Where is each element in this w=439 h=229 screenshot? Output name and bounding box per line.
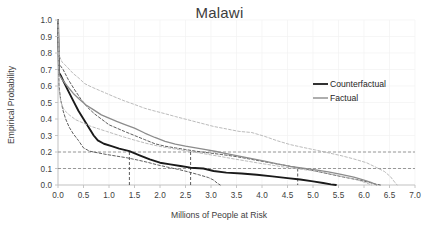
x-axis-title: Millions of People at Risk: [171, 210, 268, 220]
y-tick-label: 0.2: [41, 148, 53, 157]
x-tick-label: 5.0: [307, 191, 319, 200]
legend-label-factual: Factual: [330, 93, 358, 103]
x-tick-label: 2.0: [154, 191, 166, 200]
x-tick-label: 6.0: [358, 191, 370, 200]
chart-legend: Counterfactual Factual: [313, 79, 386, 103]
series-line: [58, 25, 372, 185]
x-tick-label: 1.5: [129, 191, 141, 200]
y-tick-label: 0.9: [41, 33, 53, 42]
y-tick-label: 0.5: [41, 99, 53, 108]
x-tick-label: 1.0: [103, 191, 115, 200]
x-tick-label: 5.5: [333, 191, 345, 200]
x-tick-label: 0.5: [78, 191, 90, 200]
series-line: [58, 23, 220, 185]
y-tick-label: 0.3: [41, 132, 53, 141]
y-tick-label: 0.7: [41, 66, 53, 75]
x-tick-label: 3.0: [205, 191, 217, 200]
y-tick-label: 1.0: [41, 16, 53, 25]
x-tick-label: 2.5: [180, 191, 192, 200]
y-tick-label: 0.8: [41, 49, 53, 58]
chart-plot-area: 0.00.51.01.52.02.53.03.54.04.55.05.56.06…: [0, 0, 439, 229]
x-tick-label: 4.0: [256, 191, 268, 200]
y-tick-label: 0.4: [41, 115, 53, 124]
gridlines: [58, 20, 415, 185]
x-tick-label: 3.5: [231, 191, 243, 200]
y-tick-label: 0.6: [41, 82, 53, 91]
y-axis-title: Empirical Probability: [6, 65, 16, 144]
x-axis-ticks: 0.00.51.01.52.02.53.03.54.04.55.05.56.06…: [52, 185, 421, 200]
x-tick-label: 7.0: [409, 191, 421, 200]
x-tick-label: 0.0: [52, 191, 64, 200]
x-tick-label: 4.5: [282, 191, 294, 200]
y-tick-label: 0.1: [41, 165, 53, 174]
legend-label-counterfactual: Counterfactual: [330, 79, 386, 89]
chart-page: Malawi 0.00.51.01.52.02.53.03.54.04.55.0…: [0, 0, 439, 229]
y-tick-label: 0.0: [41, 181, 53, 190]
x-tick-label: 6.5: [384, 191, 396, 200]
y-axis-ticks: 0.00.10.20.30.40.50.60.70.80.91.0: [41, 16, 58, 190]
